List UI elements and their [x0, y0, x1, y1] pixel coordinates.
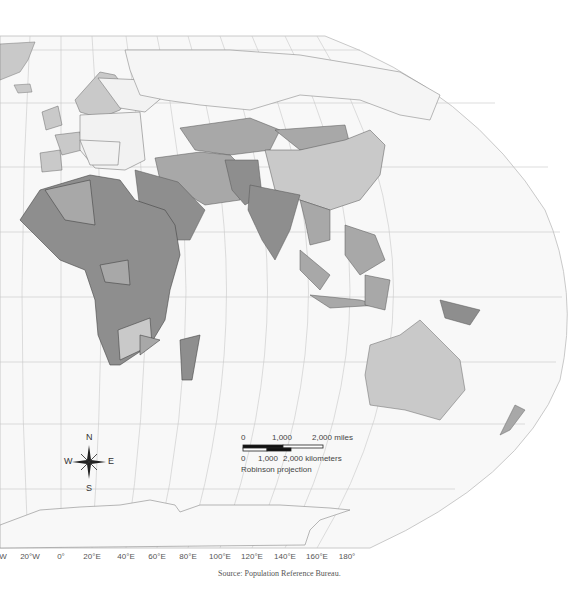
- scale-miles-0: 0: [241, 433, 245, 442]
- compass-east: E: [108, 456, 114, 466]
- lon-label: W: [0, 552, 7, 561]
- lon-label: 0°: [57, 552, 65, 561]
- scale-miles-1000: 1,000: [272, 433, 292, 442]
- lon-label: 140°E: [274, 552, 296, 561]
- lon-label: 80°E: [179, 552, 196, 561]
- lon-label: 120°E: [241, 552, 263, 561]
- projection-label: Robinson projection: [241, 465, 312, 474]
- compass-west: W: [64, 456, 73, 466]
- lon-label: 180°: [339, 552, 356, 561]
- compass-south: S: [86, 483, 92, 493]
- lon-label: 100°E: [209, 552, 231, 561]
- source-citation: Source: Population Reference Bureau.: [218, 569, 341, 578]
- scale-km-2000: 2,000 kilometers: [283, 454, 342, 463]
- lon-label: 20°E: [83, 552, 100, 561]
- compass-north: N: [86, 432, 93, 442]
- scale-miles-2000: 2,000 miles: [312, 433, 353, 442]
- scale-km-1000: 1,000: [258, 454, 278, 463]
- lon-label: 160°E: [306, 552, 328, 561]
- lon-label: 40°E: [117, 552, 134, 561]
- scale-km-0: 0: [241, 454, 245, 463]
- world-map: [0, 0, 587, 604]
- lon-label: 60°E: [148, 552, 165, 561]
- lon-label: 20°W: [20, 552, 40, 561]
